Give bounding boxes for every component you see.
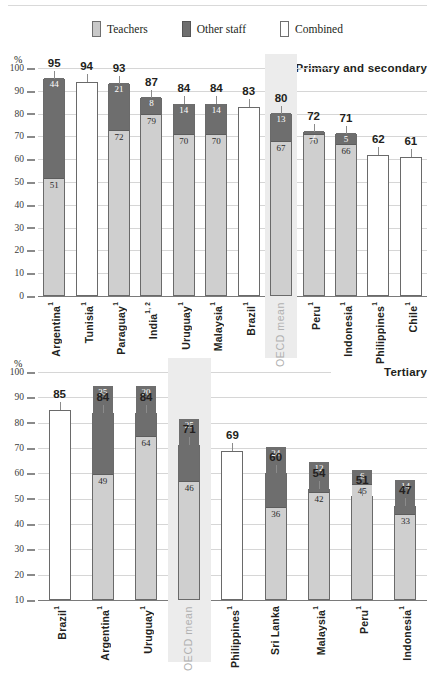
bar[interactable]: 6420 [135, 413, 157, 600]
segment-divider [136, 436, 156, 437]
bar-slot[interactable]: 62 [362, 68, 394, 296]
bar-combined[interactable] [238, 107, 260, 296]
bar-slot[interactable]: 69 [211, 372, 254, 600]
segment-value-teachers: 79 [147, 115, 156, 126]
bar-slot[interactable]: 362460 [254, 372, 297, 600]
segment-value-other-staff: 8 [149, 97, 154, 108]
bar-slot[interactable]: 45651 [341, 372, 384, 600]
bar[interactable]: 702 [303, 132, 325, 296]
bar-combined[interactable] [221, 451, 243, 600]
bar-slot[interactable]: 642084 [124, 372, 167, 600]
bar-slot[interactable]: 671380 [265, 68, 297, 296]
y-axis-tick: 20 [15, 245, 36, 255]
bar-total-label: 95 [48, 57, 61, 69]
bar-total-label: 60 [269, 451, 282, 463]
legend-label-other-staff: Other staff [197, 23, 246, 35]
bar-total-label: 72 [307, 110, 320, 122]
bar-total-label: 85 [53, 388, 66, 400]
bar-slot[interactable]: 421254 [297, 372, 340, 600]
teachers-swatch-icon [92, 21, 101, 37]
segment-value-other-staff: 44 [50, 78, 59, 89]
bar-total-label: 83 [242, 85, 255, 97]
segment-divider [309, 492, 329, 493]
bar-slot[interactable]: 70272 [297, 68, 329, 296]
bar-slot[interactable]: 61 [395, 68, 427, 296]
legend-item-other-staff: Other staff [182, 21, 246, 37]
bar[interactable]: 5144 [43, 79, 65, 296]
chart-primary-and-secondary: % Primary and secondary 1009080706050403… [0, 54, 435, 354]
segment-teachers: 66 [336, 145, 356, 295]
segment-teachers: 72 [109, 131, 129, 295]
bar-combined[interactable] [49, 410, 71, 600]
y-axis-tick: 90 [15, 392, 36, 402]
bar-combined[interactable] [400, 157, 422, 296]
bar[interactable]: 798 [140, 98, 162, 296]
total-leader-line [184, 96, 185, 104]
y-axis-tick: 60 [15, 468, 36, 478]
bar-combined[interactable] [76, 82, 98, 296]
bar-slot[interactable]: 83 [233, 68, 265, 296]
bar[interactable]: 7014 [205, 104, 227, 296]
bar-slot[interactable]: 462571 [168, 372, 211, 600]
segment-teachers: 70 [304, 135, 324, 295]
combined-swatch-icon [280, 21, 289, 37]
y-axis-tick: 40 [15, 200, 36, 210]
bar-total-label: 84 [210, 82, 223, 94]
segment-divider [395, 514, 415, 515]
segment-value-teachers: 66 [341, 145, 350, 156]
bar-slot[interactable]: 85 [38, 372, 81, 600]
bar-slot[interactable]: 722193 [103, 68, 135, 296]
x-axis-label: Malaysia1 [312, 606, 327, 655]
segment-value-other-staff: 13 [277, 113, 286, 124]
bar-group: 5144959472219379887701484701484836713807… [38, 68, 427, 296]
bar-slot[interactable]: 331447 [384, 372, 427, 600]
legend-label-combined: Combined [295, 23, 343, 35]
bar-slot[interactable]: 701484 [200, 68, 232, 296]
segment-teachers: 67 [271, 142, 291, 295]
segment-teachers: 36 [266, 508, 286, 599]
bar[interactable]: 7221 [108, 84, 130, 296]
segment-teachers: 33 [395, 515, 415, 599]
total-leader-line [103, 405, 104, 413]
bar[interactable]: 7014 [173, 104, 195, 296]
x-axis-label: Argentina1 [47, 302, 62, 357]
segment-teachers: 79 [141, 115, 161, 295]
bar[interactable]: 6713 [270, 114, 292, 296]
total-leader-line [249, 99, 250, 107]
bar-slot[interactable]: 66571 [330, 68, 362, 296]
segment-teachers: 46 [179, 482, 199, 599]
bar-slot[interactable]: 94 [70, 68, 102, 296]
bar-combined[interactable] [367, 155, 389, 296]
segment-value-teachers: 72 [115, 131, 124, 142]
bar-slot[interactable]: 701484 [168, 68, 200, 296]
total-leader-line [276, 465, 277, 473]
segment-value-teachers: 46 [185, 482, 194, 493]
bar-total-label: 84 [96, 391, 109, 403]
bar-total-label: 69 [226, 429, 239, 441]
segment-divider [206, 134, 226, 135]
x-axis-label: Philippines1 [226, 606, 241, 668]
bar-total-label: 80 [275, 92, 288, 104]
bar[interactable]: 3314 [394, 506, 416, 600]
y-axis-tick: 80 [15, 418, 36, 428]
segment-divider [93, 474, 113, 475]
bar[interactable]: 4212 [308, 489, 330, 600]
bar[interactable]: 456 [351, 496, 373, 600]
x-axis-labels-primary: Argentina1Tunisia1Paraguay1India1, 2Urug… [38, 298, 427, 354]
bar-slot[interactable]: 79887 [135, 68, 167, 296]
bar-slot[interactable]: 514495 [38, 68, 70, 296]
total-leader-line [216, 96, 217, 104]
x-axis-label: Indonesia1 [339, 302, 354, 357]
segment-divider [174, 134, 194, 135]
total-leader-line [151, 90, 152, 98]
bar-total-label: 61 [404, 135, 417, 147]
gridline [38, 600, 427, 601]
segment-teachers: 70 [206, 135, 226, 295]
x-axis-label: Tunisia1 [80, 302, 95, 343]
bar[interactable]: 3624 [265, 473, 287, 600]
bar[interactable]: 665 [335, 134, 357, 296]
bar[interactable]: 4625 [178, 445, 200, 600]
y-axis-tick: 20 [15, 570, 36, 580]
bar-slot[interactable]: 493584 [81, 372, 124, 600]
bar[interactable]: 4935 [92, 413, 114, 600]
